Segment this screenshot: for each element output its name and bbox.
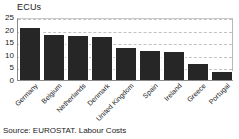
bar	[43, 34, 65, 80]
bar	[163, 51, 185, 80]
x-axis-tick-label: Germany	[14, 82, 40, 108]
bar	[187, 63, 209, 80]
y-axis-tick-label: 20	[5, 27, 14, 35]
source-note: Source: EUROSTAT. Labour Costs	[3, 126, 126, 136]
x-axis-tick-label: Ireland	[163, 82, 184, 103]
y-axis-tick-label-group: 0510152025	[0, 18, 15, 81]
bar	[91, 36, 113, 80]
bar	[139, 50, 161, 80]
bar	[115, 47, 137, 80]
y-axis-tick-label: 0	[10, 77, 14, 85]
bar	[19, 27, 41, 80]
y-axis-tick-label: 10	[5, 52, 14, 60]
bar-series	[18, 19, 232, 80]
x-axis-tick-label: Spain	[141, 82, 159, 100]
x-axis-tick-label: Portugal	[208, 82, 232, 106]
plot-area	[17, 18, 233, 81]
x-axis-tick-label: Greece	[186, 82, 208, 104]
bar	[211, 71, 233, 80]
y-axis-tick-label: 5	[10, 64, 14, 72]
y-axis-tick-label: 15	[5, 39, 14, 47]
y-axis-tick-label: 25	[5, 14, 14, 22]
y-axis-unit-title: ECUs	[17, 2, 41, 13]
bar	[67, 35, 89, 80]
bar-chart-figure: ECUs 0510152025 GermanyBelgiumNetherland…	[0, 0, 239, 139]
x-axis-tick-label-group: GermanyBelgiumNetherlandsDenmarkUnited K…	[17, 82, 233, 120]
